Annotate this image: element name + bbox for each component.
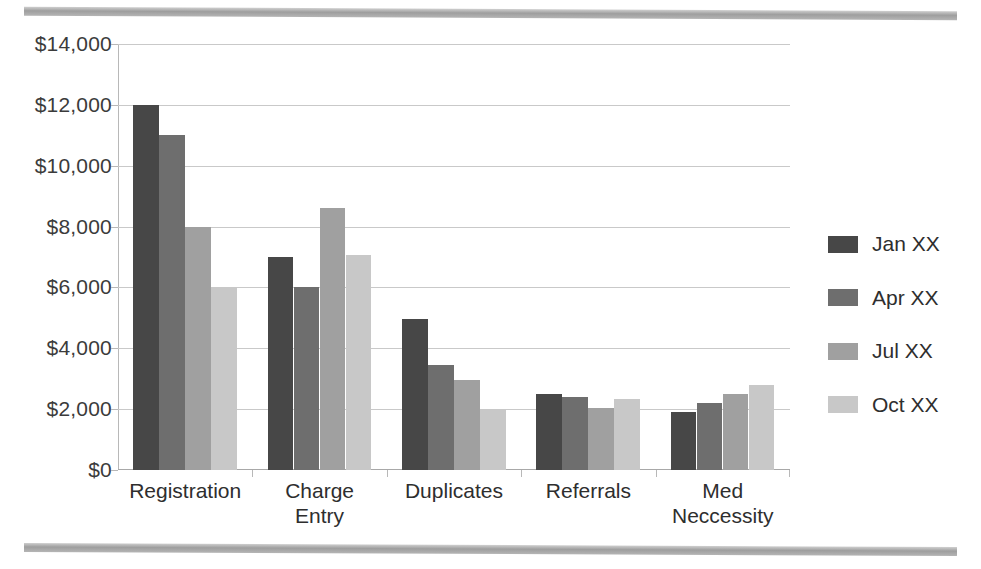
- y-axis-tick-label: $2,000: [47, 397, 112, 421]
- bar: [480, 409, 506, 470]
- bar: [133, 105, 159, 470]
- bar: [185, 227, 211, 470]
- x-axis-category-label-line: Duplicates: [387, 478, 521, 503]
- x-axis-category-label: Registration: [118, 478, 252, 503]
- bar: [402, 319, 428, 470]
- x-axis-category-label-line: Med: [656, 478, 790, 503]
- x-axis-tick: [789, 470, 790, 477]
- x-axis-labels: RegistrationChargeEntryDuplicatesReferra…: [118, 478, 790, 538]
- y-axis-tick: [111, 470, 118, 471]
- y-axis-tick-label: $0: [88, 458, 112, 482]
- y-axis-tick: [111, 227, 118, 228]
- y-axis-tick-label: $12,000: [35, 93, 112, 117]
- legend-item[interactable]: Apr XX: [828, 286, 939, 310]
- bar: [294, 287, 320, 470]
- legend-item[interactable]: Jan XX: [828, 232, 940, 256]
- gridline: [118, 227, 790, 228]
- legend-swatch: [828, 289, 858, 306]
- y-axis-tick: [111, 409, 118, 410]
- x-axis-tick: [387, 470, 388, 477]
- x-axis-category-label-line: Charge: [252, 478, 386, 503]
- gridline: [118, 166, 790, 167]
- page-bottom-rule: [24, 543, 957, 556]
- bar: [536, 394, 562, 470]
- x-axis-category-label-line: Referrals: [521, 478, 655, 503]
- y-axis-tick-label: $8,000: [47, 215, 112, 239]
- chart-legend: Jan XXApr XXJul XXOct XX: [828, 232, 973, 432]
- legend-swatch: [828, 343, 858, 360]
- bar: [697, 403, 723, 470]
- bar: [749, 385, 775, 470]
- bar: [723, 394, 749, 470]
- bar: [428, 365, 454, 470]
- y-axis-labels: $0$2,000$4,000$6,000$8,000$10,000$12,000…: [0, 26, 112, 456]
- y-axis-tick-label: $10,000: [35, 154, 112, 178]
- x-axis-category-label-line: Registration: [118, 478, 252, 503]
- y-axis-line: [118, 44, 119, 470]
- page-top-rule: [24, 7, 957, 21]
- x-axis-category-label-line: Entry: [252, 503, 386, 528]
- legend-item[interactable]: Jul XX: [828, 339, 933, 363]
- y-axis-tick-label: $6,000: [47, 275, 112, 299]
- x-axis-category-label: ChargeEntry: [252, 478, 386, 528]
- bar: [562, 397, 588, 470]
- bar: [614, 399, 640, 471]
- gridline: [118, 44, 790, 45]
- legend-label: Oct XX: [872, 393, 939, 417]
- legend-label: Jan XX: [872, 232, 940, 256]
- bar-chart: $0$2,000$4,000$6,000$8,000$10,000$12,000…: [0, 26, 981, 538]
- y-axis-tick: [111, 287, 118, 288]
- bar: [211, 287, 237, 470]
- bar: [159, 135, 185, 470]
- x-axis-tick: [521, 470, 522, 477]
- plot-area: [118, 44, 790, 470]
- x-axis-category-label: Referrals: [521, 478, 655, 503]
- bar: [671, 412, 697, 470]
- x-axis-category-label: Duplicates: [387, 478, 521, 503]
- bar: [268, 257, 294, 470]
- y-axis-tick: [111, 348, 118, 349]
- y-axis-tick: [111, 166, 118, 167]
- gridline: [118, 105, 790, 106]
- bar: [454, 380, 480, 470]
- legend-swatch: [828, 236, 858, 253]
- y-axis-tick: [111, 105, 118, 106]
- legend-label: Jul XX: [872, 339, 933, 363]
- x-axis-category-label: MedNeccessity: [656, 478, 790, 528]
- x-axis-category-label-line: Neccessity: [656, 503, 790, 528]
- bar: [320, 208, 346, 470]
- y-axis-tick-label: $4,000: [47, 336, 112, 360]
- bar: [588, 408, 614, 470]
- x-axis-tick: [656, 470, 657, 477]
- x-axis-tick: [252, 470, 253, 477]
- y-axis-tick-label: $14,000: [35, 32, 112, 56]
- legend-item[interactable]: Oct XX: [828, 393, 939, 417]
- legend-label: Apr XX: [872, 286, 939, 310]
- y-axis-tick: [111, 44, 118, 45]
- bar: [346, 255, 372, 470]
- legend-swatch: [828, 396, 858, 413]
